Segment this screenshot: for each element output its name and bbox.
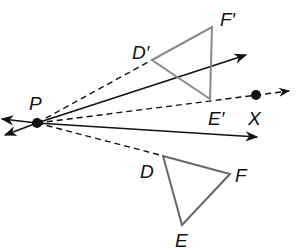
label-x: X xyxy=(247,108,262,129)
label-e: E xyxy=(175,230,188,251)
diagram-svg: P X D′ F′ E′ D F E xyxy=(0,0,299,252)
label-p: P xyxy=(29,93,42,114)
triangle-def xyxy=(163,156,230,225)
triangle-d-prime-e-prime-f-prime xyxy=(152,27,212,99)
ray-left-upper xyxy=(2,119,37,123)
point-p xyxy=(32,118,42,128)
point-x xyxy=(251,90,261,100)
label-d-prime: D′ xyxy=(132,42,151,63)
label-d: D xyxy=(140,161,154,182)
label-f-prime: F′ xyxy=(220,9,237,30)
label-f: F xyxy=(235,165,248,186)
dashed-p-to-d xyxy=(37,123,160,155)
ray-left-lower xyxy=(5,123,37,135)
label-e-prime: E′ xyxy=(208,108,226,129)
rotation-diagram: P X D′ F′ E′ D F E xyxy=(0,0,299,252)
